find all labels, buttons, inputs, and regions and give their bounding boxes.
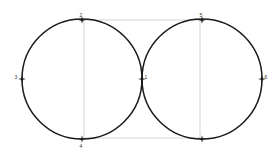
- point-label-2: 2: [80, 12, 83, 18]
- point-label-3: 3: [15, 74, 18, 80]
- point-label-4: 4: [80, 143, 83, 149]
- point-label-5: 5: [200, 12, 203, 18]
- point-marker-3: [19, 76, 25, 82]
- marker-dot: [261, 78, 264, 81]
- marker-dot: [141, 78, 144, 81]
- geometry-figure: 123456: [0, 0, 279, 158]
- point-label-1: 1: [145, 74, 148, 80]
- left-circle: [22, 19, 142, 139]
- right-circle: [142, 19, 262, 139]
- marker-dot: [201, 19, 204, 22]
- marker-dot: [21, 78, 24, 81]
- point-label-6: 6: [265, 74, 268, 80]
- marker-dot: [201, 138, 204, 141]
- diagram-canvas: 123456: [0, 0, 279, 158]
- marker-dot: [81, 19, 84, 22]
- marker-dot: [81, 138, 84, 141]
